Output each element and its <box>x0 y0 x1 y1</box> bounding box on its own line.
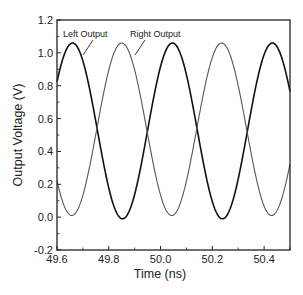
y-tick-label: 0.6 <box>38 113 53 125</box>
x-tick-label: 50.4 <box>253 253 274 265</box>
y-tick-label: 0.2 <box>38 178 53 190</box>
y-tick-label: 0.8 <box>38 80 53 92</box>
plot-curves <box>57 43 290 219</box>
y-tick-label: 1.2 <box>38 14 53 26</box>
annotation-left-output: Left Output <box>63 29 108 39</box>
y-tick-label: 0.4 <box>38 145 53 157</box>
y-axis-label: Output Voltage (V) <box>11 84 25 187</box>
x-axis-label: Time (ns) <box>134 267 186 281</box>
series-left-output <box>57 43 290 219</box>
x-tick-label: 50.0 <box>150 253 171 265</box>
output-voltage-chart: -0.20.00.20.40.60.81.01.2 49.649.850.050… <box>0 0 303 295</box>
x-tick-label: 49.6 <box>46 253 67 265</box>
x-axis: 49.649.850.050.250.4 <box>46 246 290 265</box>
annotation-right-output: Right Output <box>130 29 181 39</box>
annotation-arrow-right <box>135 40 145 55</box>
x-tick-label: 50.2 <box>202 253 223 265</box>
annotation-arrow-left <box>83 40 93 55</box>
series-right-output <box>57 43 290 216</box>
y-tick-label: 1.0 <box>38 47 53 59</box>
x-tick-label: 49.8 <box>98 253 119 265</box>
y-tick-label: 0.0 <box>38 211 53 223</box>
